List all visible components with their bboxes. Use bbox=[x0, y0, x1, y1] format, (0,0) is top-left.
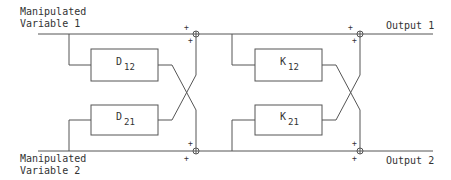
plus-sign: + bbox=[184, 23, 189, 32]
input-label-1: Manipulated Variable 1 bbox=[20, 6, 86, 29]
plus-sign: + bbox=[188, 139, 193, 148]
output-label-2: Output 2 bbox=[386, 155, 434, 166]
plus-sign: + bbox=[352, 36, 357, 45]
wire-k21-to-top-junction bbox=[322, 37, 360, 120]
block-d21: D21 bbox=[91, 105, 158, 135]
plus-sign: + bbox=[184, 154, 189, 163]
wire-branch-to-d21 bbox=[69, 120, 91, 151]
input-label-2-line1: Manipulated bbox=[20, 153, 86, 164]
input-label-1-line2: Variable 1 bbox=[20, 18, 80, 29]
wire-branch-to-d12 bbox=[69, 34, 91, 65]
plus-sign: + bbox=[352, 154, 357, 163]
input-label-2: Manipulated Variable 2 bbox=[20, 153, 86, 176]
plus-sign: + bbox=[352, 139, 357, 148]
block-d12: D12 bbox=[91, 49, 158, 81]
wire-d21-to-top-junction bbox=[158, 37, 196, 120]
output-label-1: Output 1 bbox=[386, 20, 434, 31]
input-label-1-line1: Manipulated bbox=[20, 6, 86, 17]
block-k12: K12 bbox=[255, 49, 322, 81]
wire-k12-to-bottom-junction bbox=[322, 65, 360, 148]
block-k21: K21 bbox=[255, 105, 322, 135]
input-label-2-line2: Variable 2 bbox=[20, 165, 80, 176]
decoupling-block-diagram: Manipulated Variable 1 Manipulated Varia… bbox=[0, 0, 451, 180]
wire-branch-to-k21 bbox=[232, 120, 255, 151]
wire-d12-to-bottom-junction bbox=[158, 65, 196, 148]
plus-sign: + bbox=[188, 36, 193, 45]
plus-sign: + bbox=[348, 23, 353, 32]
wire-branch-to-k12 bbox=[232, 34, 255, 65]
